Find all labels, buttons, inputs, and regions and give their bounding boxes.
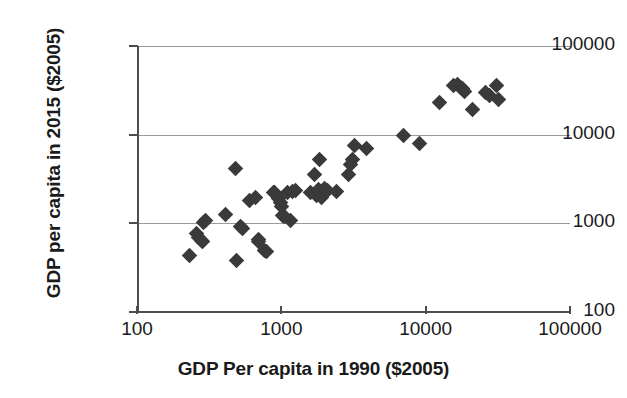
x-tick-label: 100000 xyxy=(510,318,627,340)
x-tick-label: 100 xyxy=(77,318,197,340)
x-tick-mark xyxy=(136,306,138,314)
data-point xyxy=(307,167,323,183)
data-point xyxy=(396,127,412,143)
x-tick-mark xyxy=(425,306,427,314)
x-axis-title: GDP Per capita in 1990 ($2005) xyxy=(0,358,627,380)
x-tick-label: 10000 xyxy=(366,318,486,340)
data-point xyxy=(229,253,245,269)
data-point xyxy=(228,161,244,177)
data-point xyxy=(218,207,234,223)
x-tick-mark xyxy=(280,306,282,314)
plot-area xyxy=(137,46,570,312)
data-point xyxy=(346,137,362,153)
x-tick-label: 1000 xyxy=(221,318,341,340)
data-point xyxy=(181,248,197,264)
data-point xyxy=(312,151,328,167)
x-tick-mark xyxy=(569,306,571,314)
y-tick-mark xyxy=(129,45,138,47)
y-tick-label: 1000 xyxy=(503,210,627,232)
y-tick-label: 100000 xyxy=(503,33,627,55)
y-axis-line xyxy=(137,46,139,313)
data-point xyxy=(432,95,448,111)
y-tick-mark xyxy=(129,222,138,224)
y-tick-label: 10000 xyxy=(503,122,627,144)
scatter-chart: GDP per capita in 2015 ($2005) GDP Per c… xyxy=(0,0,627,398)
y-axis-title: GDP per capita in 2015 ($2005) xyxy=(43,13,65,313)
y-tick-mark xyxy=(129,134,138,136)
data-point xyxy=(464,102,480,118)
data-point xyxy=(411,136,427,152)
